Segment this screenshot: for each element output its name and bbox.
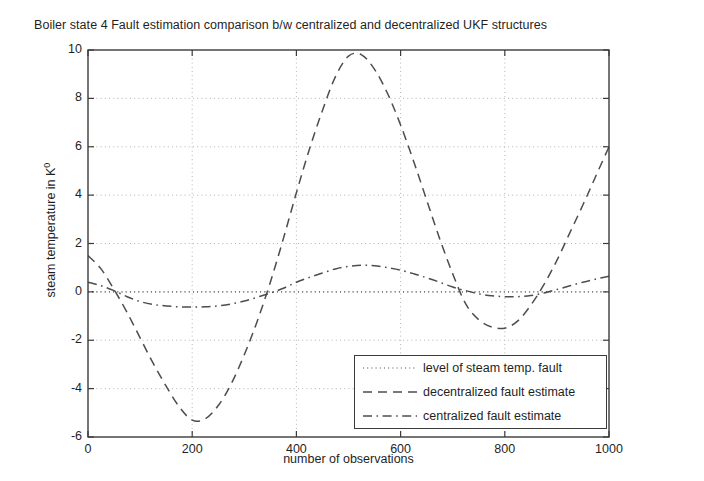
chart-figure: Boiler state 4 Fault estimation comparis… xyxy=(0,0,704,481)
series-line-centralized-fault-estimate xyxy=(88,265,609,307)
chart-title: Boiler state 4 Fault estimation comparis… xyxy=(34,18,547,32)
legend-item-centralized-fault-estimate: centralized fault estimate xyxy=(355,404,606,428)
y-axis-label: steam temperature in K0 xyxy=(42,120,58,340)
legend-label: decentralized fault estimate xyxy=(419,385,575,399)
chart-legend: level of steam temp. fault decentralized… xyxy=(354,355,607,429)
legend-label: centralized fault estimate xyxy=(419,409,561,423)
legend-item-level-of-steam-temp-fault: level of steam temp. fault xyxy=(355,356,606,380)
y-tick-label: -6 xyxy=(42,429,82,443)
legend-swatch-dotted xyxy=(361,362,419,374)
y-axis-label-text: steam temperature in K xyxy=(44,168,58,298)
legend-swatch-dashed xyxy=(361,386,419,398)
legend-item-decentralized-fault-estimate: decentralized fault estimate xyxy=(355,380,606,404)
y-axis-label-superscript: 0 xyxy=(42,163,52,168)
legend-label: level of steam temp. fault xyxy=(419,361,562,375)
legend-swatch-dashdot xyxy=(361,410,419,422)
y-tick-label: 8 xyxy=(42,90,82,104)
x-axis-label: number of observations xyxy=(88,452,609,466)
y-tick-label: 10 xyxy=(42,42,82,56)
y-tick-label: -4 xyxy=(42,381,82,395)
